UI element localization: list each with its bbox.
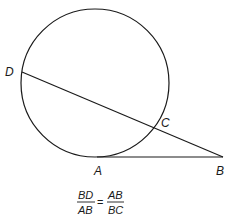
circle (21, 9, 169, 157)
point-label-d: D (5, 65, 14, 79)
point-label-a: A (93, 164, 102, 178)
formula-right-denominator: BC (108, 204, 123, 216)
formula: BD AB = AB BC (77, 189, 124, 216)
point-label-c: C (161, 116, 170, 130)
geometry-diagram: D C A B BD AB = AB BC (0, 0, 235, 224)
secant-line-db (22, 72, 223, 157)
point-label-b: B (216, 164, 224, 178)
formula-right-numerator: AB (107, 189, 123, 201)
formula-equals: = (97, 196, 103, 208)
formula-left-denominator: AB (77, 204, 93, 216)
formula-left-numerator: BD (78, 189, 93, 201)
